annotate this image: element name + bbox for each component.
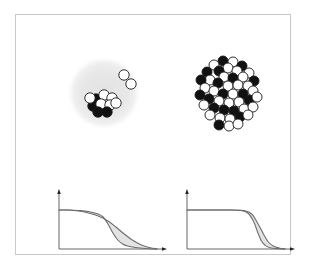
sharp-profile-svg	[178, 187, 294, 259]
nucleon	[199, 100, 209, 110]
x-axis-arrow-icon	[290, 247, 295, 251]
nucleon	[233, 119, 243, 129]
nucleon	[102, 107, 112, 117]
halo-nucleus-illustration	[54, 43, 154, 143]
sharp-density-profile-chart	[178, 187, 294, 259]
density-curve	[59, 210, 157, 249]
y-axis-arrow-icon	[185, 189, 189, 194]
nucleon	[233, 80, 243, 90]
density-curve	[59, 210, 157, 249]
figure-root	[0, 0, 309, 269]
y-axis-arrow-icon	[57, 189, 61, 194]
nucleon	[195, 90, 205, 100]
nucleon	[111, 98, 121, 108]
diffuse-chart-plot	[57, 189, 167, 251]
density-curve	[187, 210, 285, 249]
nucleon	[252, 92, 262, 102]
sharp-chart-plot	[185, 189, 295, 251]
diffuse-profile-svg	[50, 187, 166, 259]
nucleon	[126, 79, 136, 89]
diffuse-density-profile-chart	[50, 187, 166, 259]
nucleon	[224, 121, 234, 131]
density-band-shaded-area	[187, 210, 285, 249]
density-curve	[187, 210, 285, 249]
nucleon	[214, 120, 224, 130]
halo-nucleus-svg	[54, 43, 154, 143]
nucleon	[205, 110, 215, 120]
nucleon	[85, 93, 95, 103]
ordinary-nucleus-illustration	[186, 51, 272, 137]
figure-frame	[15, 14, 291, 255]
nucleon	[223, 63, 233, 73]
nucleon	[119, 70, 129, 80]
density-band-shaded-area	[59, 210, 157, 249]
x-axis-arrow-icon	[162, 247, 167, 251]
ordinary-nucleus-svg	[186, 51, 272, 137]
nucleon	[243, 110, 253, 120]
dense-nucleons	[195, 56, 262, 131]
